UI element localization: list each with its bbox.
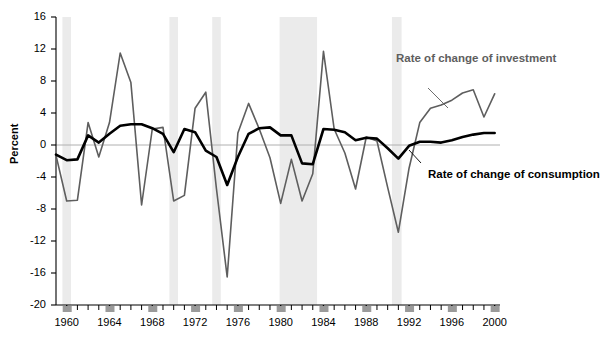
y-tick-label-16: 16 — [18, 10, 46, 22]
x-tick-block-1980 — [277, 306, 286, 312]
annotation-consumption-line1: Rate of — [428, 168, 467, 180]
x-tick-block-1972 — [191, 306, 200, 312]
y-tick-label-0: 0 — [18, 138, 46, 150]
x-tick-label-1988: 1988 — [346, 316, 386, 328]
annotation-investment-line3: investment — [496, 52, 557, 64]
x-tick-label-1992: 1992 — [389, 316, 429, 328]
annotation-consumption-line2: change of — [470, 168, 524, 180]
x-tick-block-1996 — [448, 306, 457, 312]
annotation-consumption-line3: consumption — [528, 168, 600, 180]
x-tick-block-1960 — [63, 306, 72, 312]
annotation-investment: Rate of change of investment — [396, 52, 556, 66]
x-tick-block-1976 — [234, 306, 243, 312]
series-line-investment — [56, 51, 495, 277]
recession-band-1 — [169, 17, 178, 305]
recession-band-3 — [280, 17, 317, 305]
x-tick-block-1992 — [405, 306, 414, 312]
x-tick-label-1960: 1960 — [47, 316, 87, 328]
y-tick-label--12: -12 — [18, 234, 46, 246]
annotation-investment-line1: Rate of — [396, 52, 435, 64]
y-tick-label--4: -4 — [18, 170, 46, 182]
x-tick-label-1964: 1964 — [89, 316, 129, 328]
x-tick-label-1984: 1984 — [303, 316, 343, 328]
annotation-consumption: Rate of change of consumption — [428, 168, 600, 182]
y-tick-label--20: -20 — [18, 298, 46, 310]
y-tick-label--16: -16 — [18, 266, 46, 278]
x-tick-label-1980: 1980 — [261, 316, 301, 328]
x-tick-label-1968: 1968 — [132, 316, 172, 328]
y-tick-label-4: 4 — [18, 106, 46, 118]
x-tick-block-1984 — [319, 306, 328, 312]
x-tick-block-1964 — [105, 306, 114, 312]
y-tick-label--8: -8 — [18, 202, 46, 214]
x-tick-label-1972: 1972 — [175, 316, 215, 328]
y-tick-label-12: 12 — [18, 42, 46, 54]
leader-investment — [428, 88, 448, 108]
x-tick-block-1968 — [148, 306, 157, 312]
annotation-investment-line2: change of — [438, 52, 492, 64]
y-tick-label-8: 8 — [18, 74, 46, 86]
x-tick-block-2000 — [491, 306, 500, 312]
x-tick-label-1976: 1976 — [218, 316, 258, 328]
x-tick-block-1988 — [362, 306, 371, 312]
x-tick-label-1996: 1996 — [432, 316, 472, 328]
x-tick-label-2000: 2000 — [475, 316, 515, 328]
